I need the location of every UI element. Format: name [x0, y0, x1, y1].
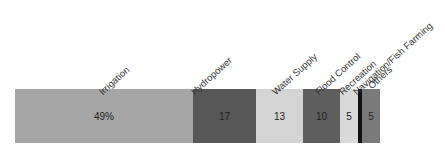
data-label: 10: [316, 111, 327, 122]
stacked-bar-chart: 49%Irrigation17Hydropower13Water Supply1…: [0, 0, 445, 151]
data-label: 13: [274, 111, 285, 122]
bar-segment-hydropower: 17: [193, 89, 256, 143]
data-label: 17: [219, 111, 230, 122]
data-label: 5: [346, 111, 352, 122]
bar-segment-flood-control: 10: [303, 89, 340, 143]
category-label: Navigation/Fish Farming: [351, 20, 435, 97]
data-label: 5: [368, 111, 374, 122]
bar-segment-irrigation: 49%: [15, 89, 193, 143]
bar-segment-water-supply: 13: [256, 89, 303, 143]
bar-segment-others: 5: [362, 89, 380, 143]
data-label: 49%: [94, 111, 114, 122]
bar-segment-recreation: 5: [340, 89, 358, 143]
